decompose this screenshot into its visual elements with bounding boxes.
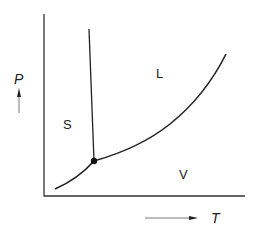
diagram-canvas — [0, 0, 258, 233]
triple-point — [91, 158, 97, 164]
vapor-region-label: V — [179, 168, 188, 181]
fusion-curve — [89, 29, 94, 161]
temperature-axis-label: T — [211, 211, 220, 225]
sublimation-curve — [55, 161, 94, 189]
pressure-axis-label: P — [14, 72, 23, 86]
phase-diagram: P T S L V — [0, 0, 258, 233]
temperature-arrow-icon — [145, 216, 198, 220]
solid-region-label: S — [63, 118, 72, 131]
pressure-arrow-icon — [17, 88, 21, 113]
liquid-region-label: L — [156, 67, 163, 80]
